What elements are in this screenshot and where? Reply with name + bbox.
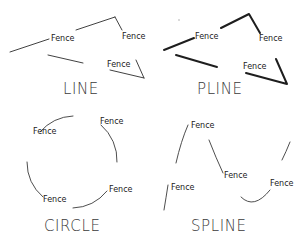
circle-arc: [73, 191, 107, 208]
fence-label: Fence: [259, 34, 283, 43]
fence-label: Fence: [51, 34, 75, 43]
spline-segment: [176, 125, 188, 163]
spline-panel: Fence Fence Fence Fence SPLINE: [164, 121, 294, 235]
spline-segment: [164, 185, 168, 210]
circle-arc: [27, 162, 43, 197]
line-segment: [110, 70, 144, 78]
linetype-diagram: Fence Fence Fence LINE Fence Fence Fence…: [0, 0, 304, 242]
fence-label: Fence: [33, 127, 57, 136]
polyline-segment: [176, 55, 217, 67]
fence-label: Fence: [224, 171, 248, 180]
circle-arc: [101, 125, 117, 162]
fence-label: Fence: [100, 117, 124, 126]
fence-label: Fence: [243, 62, 267, 71]
line-segment: [76, 17, 115, 30]
line-segment: [115, 17, 122, 30]
fence-label: Fence: [191, 121, 215, 130]
fence-label: Fence: [122, 32, 146, 41]
stray-dot: [178, 19, 179, 20]
circle-panel: Fence Fence Fence Fence CIRCLE: [27, 116, 133, 235]
line-segment: [136, 60, 144, 78]
pline-panel: Fence Fence Fence PLINE: [164, 14, 287, 98]
fence-label: Fence: [195, 32, 219, 41]
spline-segment: [209, 140, 223, 173]
fence-label: Fence: [107, 60, 131, 69]
line-segment: [10, 39, 49, 52]
fence-label: Fence: [171, 183, 195, 192]
polyline-segment: [221, 14, 260, 33]
line-panel: Fence Fence Fence LINE: [10, 17, 146, 98]
panel-title-pline: PLINE: [197, 80, 243, 98]
spline-segment: [241, 190, 270, 202]
panel-title-spline: SPLINE: [191, 217, 247, 235]
fence-label: Fence: [43, 195, 67, 204]
panel-title-line: LINE: [63, 80, 99, 98]
fence-label: Fence: [109, 185, 133, 194]
fence-label: Fence: [270, 179, 294, 188]
spline-segment: [282, 142, 290, 160]
line-segment: [48, 55, 83, 63]
polyline-segment: [164, 38, 194, 50]
panel-title-circle: CIRCLE: [44, 217, 100, 235]
